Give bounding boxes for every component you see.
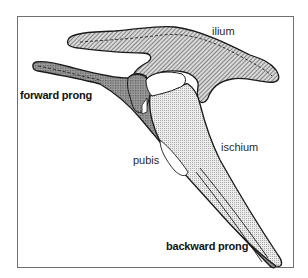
pelvis-diagram bbox=[0, 0, 308, 278]
label-backward-prong: backward prong bbox=[166, 241, 248, 252]
label-ilium: ilium bbox=[212, 26, 235, 37]
label-ischium: ischium bbox=[221, 142, 258, 153]
label-pubis: pubis bbox=[133, 155, 159, 166]
label-forward-prong: forward prong bbox=[20, 90, 92, 101]
